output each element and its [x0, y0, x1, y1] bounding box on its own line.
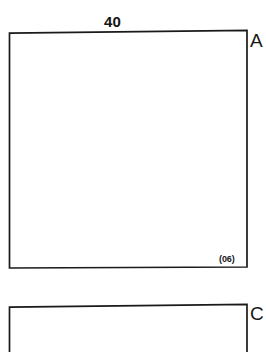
technical-drawing-figure — [0, 0, 266, 352]
vertex-label-a: A — [250, 31, 263, 50]
corner-note-label: (06) — [219, 255, 235, 264]
drawing-canvas: 40 A (06) C — [0, 0, 266, 352]
rectangle-c-outline — [10, 304, 248, 352]
vertex-label-c: C — [250, 304, 264, 323]
rectangle-a-path — [10, 30, 248, 268]
rectangle-c-path — [10, 304, 248, 352]
dimension-label-top: 40 — [104, 14, 121, 29]
rectangle-a-outline — [10, 30, 248, 268]
